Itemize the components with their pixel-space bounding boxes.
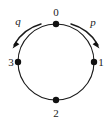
node-1-label: 1 <box>98 56 104 68</box>
generator-p-label: p <box>89 16 96 28</box>
generator-q-arc <box>14 24 41 45</box>
node-0-label: 0 <box>53 6 59 18</box>
generator-q-label: q <box>15 15 21 27</box>
node-0-dot <box>53 21 59 27</box>
node-2-dot <box>53 97 59 103</box>
diagram-canvas: 0 1 2 3 p q <box>0 0 111 122</box>
node-1-dot <box>91 59 97 65</box>
node-3-label: 3 <box>8 56 14 68</box>
generator-q-arrow <box>13 24 42 49</box>
node-2-label: 2 <box>53 107 59 119</box>
cycle-circle <box>18 24 94 100</box>
cycle-graph-figure: 0 1 2 3 p q <box>0 0 111 122</box>
node-3-dot <box>15 59 21 65</box>
